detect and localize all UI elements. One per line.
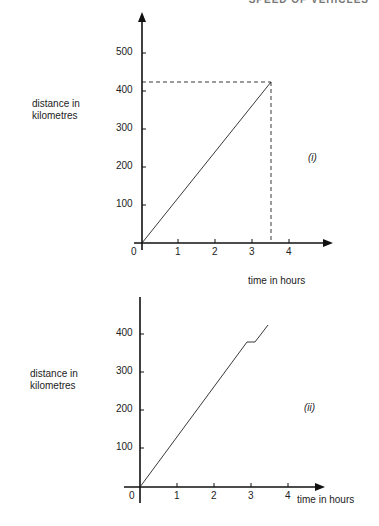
chart-ii-ytick: 200 bbox=[116, 403, 133, 414]
chart-ii-xtick: 2 bbox=[211, 490, 217, 501]
chart-ii-ylabel: distance in kilometres bbox=[30, 368, 78, 392]
chart-ii-ytick: 100 bbox=[116, 441, 133, 452]
chart-ii-series-line bbox=[140, 325, 268, 487]
chart-ii-xtick: 0 bbox=[129, 490, 135, 501]
chart-ii-xtick: 4 bbox=[285, 490, 291, 501]
chart-ii-ytick: 300 bbox=[116, 365, 133, 376]
chart-ii-xtick: 1 bbox=[174, 490, 180, 501]
chart-ii-ylabel-line2: kilometres bbox=[30, 380, 78, 392]
chart-ii-plot bbox=[0, 0, 379, 526]
chart-ii-xtick: 3 bbox=[248, 490, 254, 501]
chart-ii-x-arrow-icon bbox=[315, 483, 325, 491]
chart-ii-panel-label: (ii) bbox=[304, 402, 315, 413]
chart-ii-ytick: 400 bbox=[116, 327, 133, 338]
chart-ii-xlabel: time in hours bbox=[297, 494, 354, 505]
chart-ii-ylabel-line1: distance in bbox=[30, 368, 78, 380]
